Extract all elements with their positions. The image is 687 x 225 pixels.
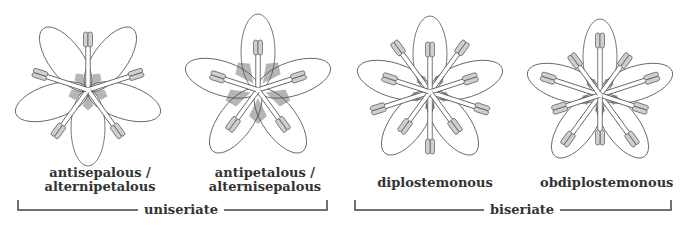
label-antisepalous: antisepalous / alternipetalous [40,166,160,194]
label-obdiplostemonous: obdiplostemonous [540,176,670,190]
label-antipetalous: antipetalous / alternisepalous [205,166,325,194]
stamen-icon [84,32,93,90]
group-label-biseriate: biseriate [484,202,560,217]
stamen-icon [426,92,435,154]
flower-diplostemonous [352,16,507,163]
stamen-icon [596,33,605,95]
flower-antisepalous [10,19,165,166]
flower-antipetalous [180,14,335,161]
stamen-icon [254,40,263,90]
flower-obdiplostemonous [522,19,677,166]
group-label-uniseriate: uniseriate [138,202,224,217]
label-diplostemonous: diplostemonous [370,176,500,190]
